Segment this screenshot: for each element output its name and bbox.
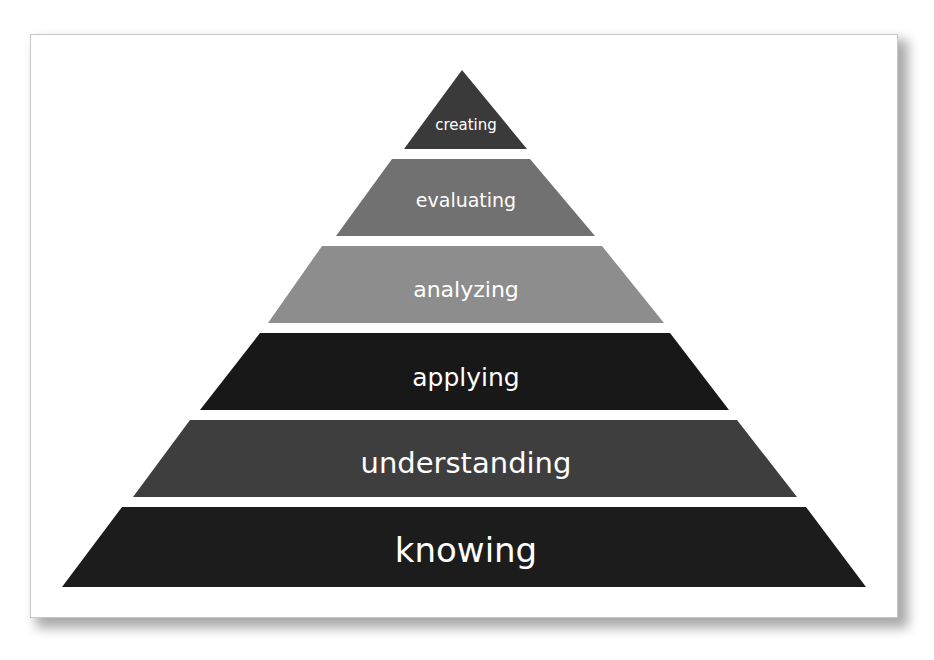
blooms-taxonomy-pyramid: creating evaluating analyzing applying u… xyxy=(0,0,934,660)
tier-analyzing: analyzing xyxy=(268,246,664,323)
tier-knowing: knowing xyxy=(62,507,866,587)
tier-creating: creating xyxy=(404,70,527,149)
tier-understanding: understanding xyxy=(133,420,797,497)
tier-analyzing-label: analyzing xyxy=(413,277,519,302)
tier-knowing-label: knowing xyxy=(395,530,537,570)
tier-creating-label: creating xyxy=(435,116,497,134)
tier-evaluating: evaluating xyxy=(336,159,595,236)
tier-evaluating-label: evaluating xyxy=(416,189,516,211)
tier-creating-shape xyxy=(404,70,527,149)
tier-understanding-label: understanding xyxy=(361,446,572,480)
tier-applying: applying xyxy=(200,333,729,410)
tier-applying-label: applying xyxy=(412,363,519,392)
